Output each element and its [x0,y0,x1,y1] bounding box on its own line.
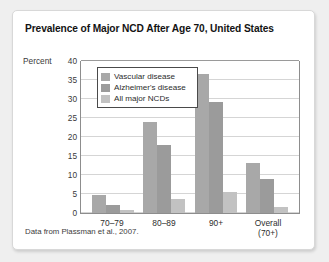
y-axis-tick-label: 10 [68,170,77,180]
chart-legend: Vascular disease Alzheimer's disease All… [97,67,198,108]
legend-swatch-vascular-disease [101,73,110,81]
bar [92,195,106,213]
y-axis-tick-label: 20 [68,132,77,142]
bar [120,210,134,213]
x-axis-label: 80–89 [141,218,187,238]
bar [143,122,157,213]
bar [106,205,120,213]
legend-label: Alzheimer's disease [114,83,186,92]
y-axis-tick-label: 25 [68,113,77,123]
bar [223,192,237,213]
legend-swatch-all-major-ncds [101,95,110,103]
y-axis-unit-label: Percent [23,56,52,66]
y-axis-tick-label: 15 [68,151,77,161]
bar [260,179,274,213]
bar [246,163,260,213]
chart-card: Prevalence of Major NCD After Age 70, Un… [12,10,315,250]
figure-root: Prevalence of Major NCD After Age 70, Un… [0,0,329,262]
legend-item: Alzheimer's disease [101,82,193,93]
bar [209,102,223,213]
y-axis-tick-label: 5 [72,189,77,199]
legend-item: Vascular disease [101,71,193,82]
legend-swatch-alzheimers-disease [101,84,110,92]
chart-title: Prevalence of Major NCD After Age 70, Un… [25,23,310,35]
y-axis-tick-label: 35 [68,75,77,85]
y-axis-tick-label: 0 [72,208,77,218]
bar [171,199,185,213]
legend-label: Vascular disease [114,72,175,81]
legend-item: All major NCDs [101,93,193,104]
source-note: Data from Plassman et al., 2007. [25,227,139,236]
x-axis-label: Overall (70+) [245,218,291,238]
legend-label: All major NCDs [114,94,169,103]
y-axis-tick-label: 30 [68,94,77,104]
x-axis-label: 90+ [193,218,239,238]
bar [157,145,171,213]
y-axis-tick-label: 40 [68,56,77,66]
bar-group [195,61,237,213]
bar-group [246,61,288,213]
bar [274,207,288,213]
